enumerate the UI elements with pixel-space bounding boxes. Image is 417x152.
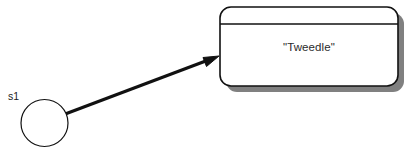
actor-circle[interactable] — [21, 100, 68, 147]
diagram-surface: "Tweedle" s1 — [0, 0, 417, 152]
association-link-line[interactable] — [44, 59, 211, 122]
object-box-group[interactable]: "Tweedle" — [220, 7, 398, 86]
association-link-group[interactable] — [44, 56, 219, 122]
actor-label: s1 — [8, 90, 19, 102]
actor-group[interactable]: s1 — [8, 90, 68, 147]
arrowhead-icon — [203, 56, 219, 67]
diagram-canvas: "Tweedle" s1 — [0, 0, 417, 152]
object-box-name-label: "Tweedle" — [283, 41, 335, 53]
